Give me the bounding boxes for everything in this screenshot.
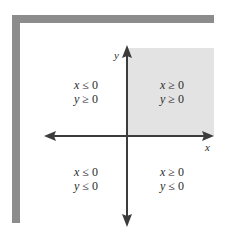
quadrant-top-right-line2: y ≥ 0	[154, 92, 190, 106]
quadrant-label-bottom-left: x ≤ 0 y ≤ 0	[68, 165, 104, 193]
quadrant-label-bottom-right: x ≥ 0 y ≤ 0	[154, 165, 190, 193]
quadrant-top-left-line2: y ≥ 0	[68, 92, 104, 106]
quadrant-bottom-right-line1: x ≥ 0	[154, 165, 190, 179]
quadrant-bottom-right-line2: y ≤ 0	[154, 179, 190, 193]
coordinate-plane	[0, 0, 226, 237]
y-axis-label: y	[114, 49, 119, 61]
quadrant-bottom-left-line2: y ≤ 0	[68, 179, 104, 193]
quadrant-label-top-left: x ≤ 0 y ≥ 0	[68, 78, 104, 106]
quadrant-label-top-right: x ≥ 0 y ≥ 0	[154, 78, 190, 106]
x-axis-label: x	[205, 141, 210, 153]
quadrant-top-right-line1: x ≥ 0	[154, 78, 190, 92]
quadrant-bottom-left-line1: x ≤ 0	[68, 165, 104, 179]
quadrant-top-left-line1: x ≤ 0	[68, 78, 104, 92]
